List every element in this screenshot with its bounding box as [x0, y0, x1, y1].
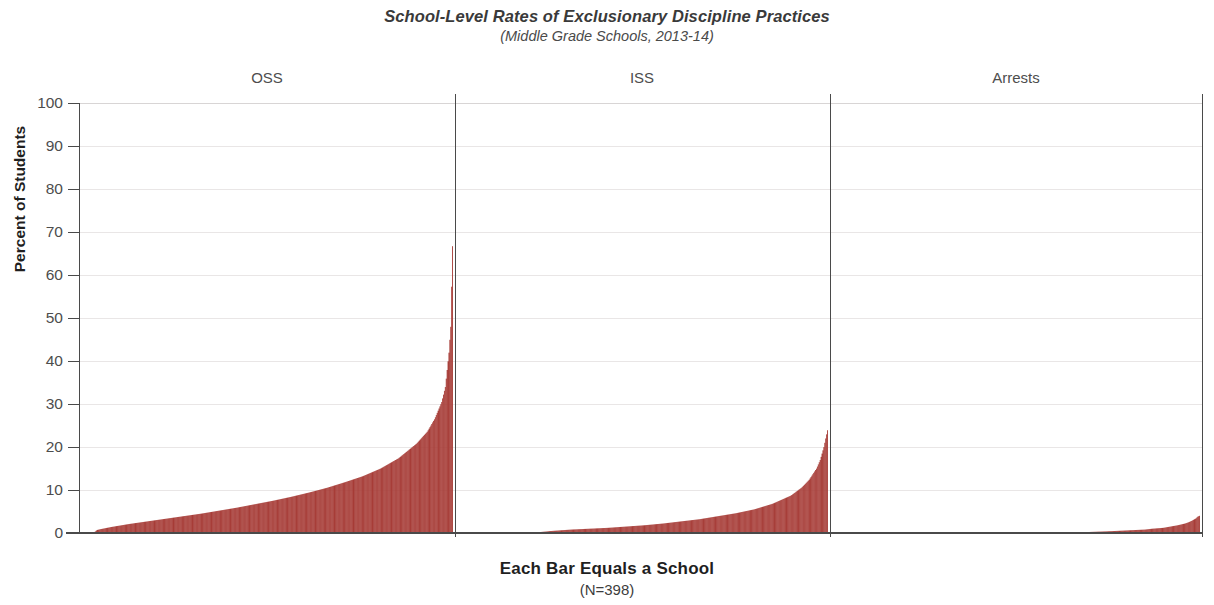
y-tick-mark — [68, 490, 79, 492]
bars-panel-arrests — [830, 103, 1202, 533]
chart-figure: School-Level Rates of Exclusionary Disci… — [0, 0, 1214, 605]
panel-header-row: OSS ISS Arrests — [80, 68, 1202, 92]
y-tick-label: 10 — [46, 480, 63, 500]
y-tick-mark — [68, 361, 79, 363]
panel-divider-1 — [455, 94, 456, 537]
y-tick-label: 20 — [46, 437, 63, 457]
y-tick-mark — [68, 404, 79, 406]
y-tick-mark — [68, 275, 79, 277]
y-tick-label: 0 — [54, 523, 63, 543]
panel-divider-2 — [830, 94, 831, 537]
panel-header-iss: ISS — [542, 68, 742, 88]
y-tick-label: 80 — [46, 179, 63, 199]
y-tick-label: 60 — [46, 265, 63, 285]
chart-subtitle: (Middle Grade Schools, 2013-14) — [0, 27, 1214, 46]
y-tick-mark — [68, 103, 79, 105]
y-tick-label: 70 — [46, 222, 63, 242]
y-axis-title: Percent of Students — [11, 69, 29, 329]
panel-header-oss: OSS — [167, 68, 367, 88]
y-tick-label: 50 — [46, 308, 63, 328]
title-block: School-Level Rates of Exclusionary Disci… — [0, 6, 1214, 46]
y-tick-mark — [68, 146, 79, 148]
bars-canvas-oss — [80, 103, 455, 533]
bars-panel-iss — [455, 103, 830, 533]
bars-canvas-iss — [455, 103, 830, 533]
y-tick-label: 90 — [46, 136, 63, 156]
y-tick-20: 20 — [0, 437, 80, 457]
plot-area — [80, 103, 1202, 533]
footer-block: Each Bar Equals a School (N=398) — [0, 558, 1214, 600]
y-tick-label: 100 — [37, 93, 63, 113]
y-tick-label: 30 — [46, 394, 63, 414]
bars-panel-oss — [80, 103, 455, 533]
x-axis-baseline — [66, 532, 1202, 534]
x-axis-caption: Each Bar Equals a School — [0, 558, 1214, 580]
chart-title: School-Level Rates of Exclusionary Disci… — [0, 6, 1214, 26]
sample-size-label: (N=398) — [0, 580, 1214, 600]
y-tick-mark — [68, 232, 79, 234]
bars-canvas-arrests — [830, 103, 1202, 533]
panel-header-arrests: Arrests — [916, 68, 1116, 88]
y-tick-label: 40 — [46, 351, 63, 371]
y-tick-mark — [68, 318, 79, 320]
plot-right-edge — [1202, 94, 1203, 537]
y-tick-mark — [68, 189, 79, 191]
y-tick-10: 10 — [0, 480, 80, 500]
y-tick-30: 30 — [0, 394, 80, 414]
y-tick-40: 40 — [0, 351, 80, 371]
y-tick-mark — [68, 447, 79, 449]
